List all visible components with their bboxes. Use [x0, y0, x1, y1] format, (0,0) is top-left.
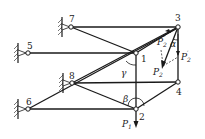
node-label-2: 2 [139, 112, 145, 122]
wall-support-5 [14, 43, 26, 63]
label-P1: P 1 [121, 119, 132, 130]
node-label-7: 7 [69, 14, 75, 24]
svg-text:2: 2 [158, 71, 163, 78]
gamma-arc [126, 61, 136, 65]
node-label-1: 1 [141, 54, 147, 64]
truss-diagram: 7 3 5 1 8 4 6 2 γ β α P 1 P 2 P 2 ′ P 2 … [0, 0, 205, 139]
svg-text:′: ′ [187, 49, 189, 56]
node-label-4: 4 [176, 87, 182, 97]
wall-support-6 [14, 99, 26, 119]
angle-beta: β [122, 94, 128, 104]
svg-text:1: 1 [128, 123, 132, 130]
node-label-3: 3 [175, 13, 181, 23]
svg-text:2: 2 [186, 56, 191, 63]
node-label-6: 6 [26, 97, 32, 107]
label-P2: P 2 [152, 67, 163, 78]
label-P2-prime: P 2 ′ [180, 49, 191, 63]
node-label-5: 5 [27, 41, 33, 51]
node-label-8: 8 [69, 71, 75, 81]
svg-text:2: 2 [162, 41, 167, 48]
angle-alpha: α [170, 39, 176, 49]
angle-gamma: γ [121, 68, 127, 78]
label-P2-double-prime: P 2 ″ [156, 34, 167, 48]
force-P1 [134, 109, 139, 128]
force-P2-prime [176, 34, 180, 56]
